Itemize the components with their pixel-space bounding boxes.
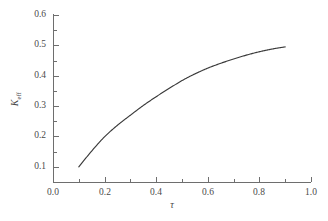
data-series-line bbox=[79, 47, 285, 167]
y-axis-title-symbol: K bbox=[9, 99, 20, 106]
x-axis-title: τ bbox=[152, 200, 192, 210]
plot-canvas bbox=[0, 0, 328, 221]
chart-figure: 0.10.20.30.40.50.60.00.20.40.60.81.0 τ K… bbox=[0, 0, 328, 221]
y-axis-title: Keff bbox=[10, 79, 23, 119]
y-axis-title-subscript: eff bbox=[15, 92, 22, 99]
